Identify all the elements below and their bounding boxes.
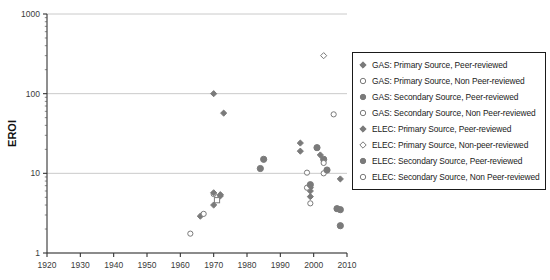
data-point	[221, 110, 227, 116]
data-point	[257, 165, 263, 171]
x-tick-label: 1980	[238, 260, 257, 270]
legend-marker-shape	[360, 62, 366, 68]
data-point	[297, 140, 303, 146]
legend-item-label: ELEC: Secondary Source, Peer-reviewed	[372, 156, 522, 166]
diamond-marker-icon	[357, 59, 369, 71]
data-point	[321, 160, 326, 165]
data-point	[307, 182, 313, 188]
x-tick-label: 1960	[171, 260, 190, 270]
y-tick-label: 10	[31, 168, 41, 178]
data-point	[321, 53, 327, 59]
y-tick-label: 1000	[21, 9, 40, 19]
data-point	[297, 148, 303, 154]
diamond-marker-icon	[357, 139, 369, 151]
legend-marker-shape	[360, 126, 366, 132]
legend-marker-shape	[360, 158, 365, 163]
circle-marker-icon	[357, 91, 369, 103]
legend-item[interactable]: GAS: Secondary Source, Peer-reviewed	[357, 89, 540, 105]
data-point	[188, 231, 193, 236]
legend-item[interactable]: GAS: Primary Source, Non Peer-reviewed	[357, 73, 540, 89]
x-tick-label: 2010	[338, 260, 357, 270]
data-point	[308, 201, 313, 206]
x-tick-label: 1920	[38, 260, 57, 270]
legend-item[interactable]: ELEC: Primary Source, Peer-reviewed	[357, 121, 540, 137]
series-1	[188, 170, 327, 236]
series-7	[214, 198, 219, 203]
data-point	[214, 198, 219, 203]
legend-item-label: ELEC: Secondary Source, Non Peer-reviewe…	[372, 172, 540, 182]
circle-marker-icon	[357, 75, 369, 87]
x-tick-label: 1970	[204, 260, 223, 270]
legend-item-label: GAS: Secondary Source, Peer-reviewed	[372, 92, 518, 102]
legend-item-label: GAS: Primary Source, Non Peer-reviewed	[372, 76, 525, 86]
data-point	[314, 145, 320, 151]
circle-marker-icon	[357, 155, 369, 167]
y-tick-label: 1	[35, 248, 40, 258]
legend-marker-shape	[360, 174, 365, 179]
legend-item-label: ELEC: Primary Source, Peer-reviewed	[372, 124, 511, 134]
legend-marker-shape	[360, 110, 365, 115]
x-tick-label: 1930	[71, 260, 90, 270]
x-tick-label: 1940	[104, 260, 123, 270]
data-point	[337, 207, 343, 213]
data-point	[337, 223, 343, 229]
data-point	[324, 167, 330, 173]
x-tick-label: 1950	[138, 260, 157, 270]
chart-legend: GAS: Primary Source, Peer-reviewedGAS: P…	[352, 52, 546, 190]
data-point	[304, 170, 309, 175]
legend-item[interactable]: GAS: Primary Source, Peer-reviewed	[357, 57, 540, 73]
diamond-marker-icon	[357, 123, 369, 135]
circle-marker-icon	[357, 171, 369, 183]
legend-item[interactable]: ELEC: Primary Source, Non-peer-reviewed	[357, 137, 540, 153]
legend-item[interactable]: GAS: Secondary Source, Non Peer-reviewed	[357, 105, 540, 121]
legend-item[interactable]: ELEC: Secondary Source, Peer-reviewed	[357, 153, 540, 169]
series-5	[321, 53, 327, 59]
legend-item-label: GAS: Primary Source, Peer-reviewed	[372, 60, 507, 70]
data-point	[261, 156, 267, 162]
data-point	[307, 194, 313, 200]
data-point	[201, 211, 206, 216]
x-tick-label: 1990	[271, 260, 290, 270]
legend-item[interactable]: ELEC: Secondary Source, Non Peer-reviewe…	[357, 169, 540, 185]
legend-item-label: GAS: Secondary Source, Non Peer-reviewed	[372, 108, 536, 118]
legend-marker-shape	[360, 94, 365, 99]
y-tick-label: 100	[26, 89, 40, 99]
y-axis-title: EROI	[6, 120, 18, 147]
data-point	[211, 91, 217, 97]
legend-item-label: ELEC: Primary Source, Non-peer-reviewed	[372, 140, 528, 150]
data-point	[331, 112, 336, 117]
x-tick-label: 2000	[304, 260, 323, 270]
data-point	[337, 176, 343, 182]
series-2	[257, 145, 343, 229]
circle-marker-icon	[357, 107, 369, 119]
legend-marker-shape	[360, 142, 366, 148]
legend-marker-shape	[360, 78, 365, 83]
